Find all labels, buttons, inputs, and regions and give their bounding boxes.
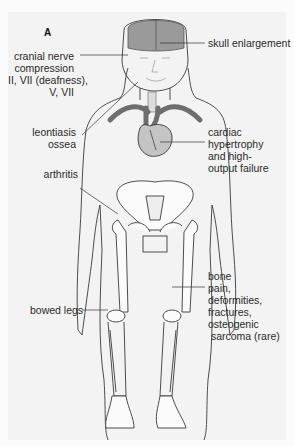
label-cranial-nerve-compression: cranial nerve compression II, VII (deafn… xyxy=(8,50,74,98)
tibia-fibula xyxy=(108,322,178,396)
label-bone-pain: bone pain, deformities, fractures, osteo… xyxy=(208,270,280,342)
panel-label: A xyxy=(44,27,51,38)
heart xyxy=(138,125,172,157)
feet xyxy=(106,396,186,428)
pelvis xyxy=(117,181,193,232)
label-leontiasis-ossea: leontiasis ossea xyxy=(20,126,76,150)
face-features xyxy=(140,58,170,81)
label-skull-enlargement: skull enlargement xyxy=(208,37,290,49)
label-bowed-legs: bowed legs xyxy=(30,304,83,316)
label-cardiac-hypertrophy: cardiac hypertrophy and high- output fai… xyxy=(208,126,269,174)
trachea xyxy=(148,92,156,112)
femurs xyxy=(112,220,197,312)
label-arthritis: arthritis xyxy=(20,168,78,180)
knees xyxy=(107,310,181,322)
